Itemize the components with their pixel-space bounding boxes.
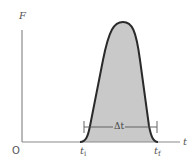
f-axis-label: F <box>19 11 26 21</box>
interval-label: Δt <box>113 122 125 131</box>
t-final-label: tf <box>154 146 161 158</box>
impulse-diagram: F t O ti tf Δt <box>0 0 196 164</box>
origin-label: O <box>12 146 20 156</box>
t-axis-label: t <box>183 137 187 147</box>
t-initial-label: ti <box>80 146 86 158</box>
diagram-canvas <box>0 0 196 164</box>
t-final-subscript: f <box>158 150 161 158</box>
t-initial-subscript: i <box>84 150 86 158</box>
